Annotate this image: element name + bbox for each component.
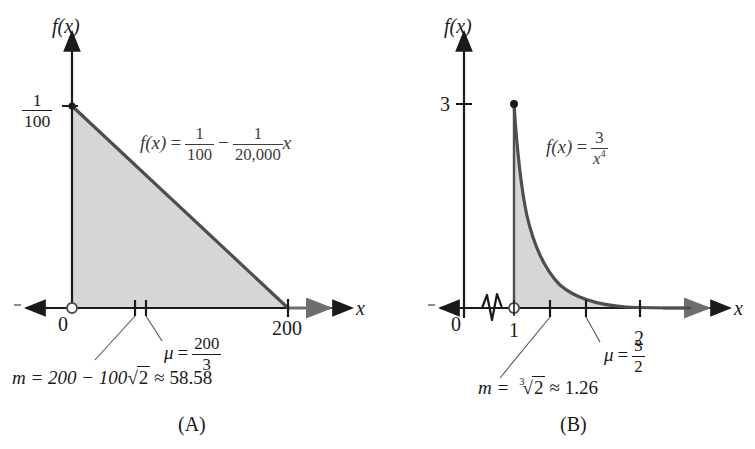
median-annotation-b: m =3√2≈ 1.26	[478, 378, 602, 397]
panel-b: f(x) 3 0 1 2 x f(x)= 3 x4 μ= 3 2 m =3√2≈…	[378, 0, 755, 449]
cbrt-icon-b: 3√2	[517, 378, 545, 397]
leader-median-a	[95, 316, 135, 360]
median-radicand-b: 2	[532, 376, 546, 398]
formula-term2-num-a: 1	[233, 125, 283, 145]
mean-numerator-a: 200	[192, 335, 221, 355]
formula-lhs-b: f(x)	[546, 136, 572, 157]
formula-den-base-b: x	[593, 149, 600, 168]
x-tick-label-200-a: 200	[272, 318, 302, 338]
x-tick-label-1-b: 1	[509, 320, 519, 340]
endpoint-dot-b	[510, 100, 518, 108]
y-tick-label-3-b: 3	[440, 94, 450, 114]
formula-term2-den-a: 20,000	[233, 145, 283, 164]
median-annotation-a: m = 200 − 100√2≈ 58.58	[12, 368, 216, 387]
mean-numerator-b: 3	[632, 337, 644, 357]
mean-annotation-b: μ= 3 2	[604, 338, 645, 376]
mean-equals-a: =	[174, 342, 193, 363]
open-point-origin-a	[67, 303, 77, 313]
median-prefix-a: m = 200 − 100	[12, 367, 127, 388]
y-tick-denominator-a: 100	[22, 111, 52, 130]
x-axis-label-b: x	[734, 298, 743, 318]
panel-caption-b: (B)	[560, 414, 587, 434]
panel-caption-a: (A)	[178, 414, 206, 434]
formula-term1-num-a: 1	[185, 125, 214, 145]
formula-equals-b: =	[572, 136, 591, 157]
mean-equals-b: =	[614, 344, 633, 365]
x-axis-label-a: x	[356, 298, 365, 318]
mean-symbol-b: μ	[604, 344, 614, 365]
leader-median-b	[500, 317, 550, 378]
function-label-a: f(x)= 1 100 − 1 20,000 x	[140, 126, 291, 164]
formula-variable-a: x	[283, 132, 291, 153]
y-tick-numerator-a: 1	[22, 91, 52, 111]
y-axis-label-a: f(x)	[52, 16, 80, 36]
function-label-b: f(x)= 3 x4	[546, 130, 608, 168]
origin-label-b: 0	[451, 314, 461, 334]
sqrt-icon-a: √2	[127, 368, 150, 387]
formula-numerator-b: 3	[591, 129, 608, 149]
median-approx-a: ≈ 58.58	[150, 367, 216, 388]
formula-equals-a: =	[166, 132, 185, 153]
leader-mean-a	[146, 316, 162, 341]
median-approx-b: ≈ 1.26	[545, 377, 601, 398]
formula-denominator-b: x4	[591, 149, 608, 168]
panel-a: f(x) 1 100 0 200 x f(x)= 1 100 − 1 20,00…	[0, 0, 378, 449]
leader-mean-b	[586, 317, 600, 342]
y-tick-label-a: 1 100	[22, 92, 52, 132]
formula-lhs-a: f(x)	[140, 132, 166, 153]
formula-minus-a: −	[214, 132, 233, 153]
y-axis-label-b: f(x)	[444, 16, 472, 36]
figure-container: f(x) 1 100 0 200 x f(x)= 1 100 − 1 20,00…	[0, 0, 755, 449]
formula-den-exp-b: 4	[601, 148, 606, 159]
formula-term1-den-a: 100	[185, 145, 214, 164]
median-radical-index-b: 3	[519, 376, 524, 387]
mean-denominator-b: 2	[632, 357, 644, 376]
origin-label-a: 0	[58, 314, 68, 334]
median-radicand-a: 2	[137, 366, 151, 388]
median-prefix-b: m =	[478, 377, 509, 398]
mean-symbol-a: μ	[164, 342, 174, 363]
